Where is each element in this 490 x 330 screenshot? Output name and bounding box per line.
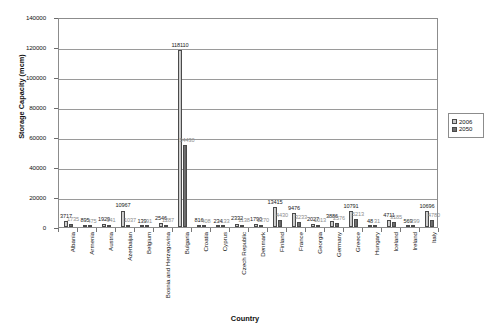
x-tick-mark	[343, 228, 344, 232]
bar-2006	[254, 224, 258, 227]
x-tick-mark	[229, 228, 230, 232]
gridline	[59, 139, 437, 140]
x-category-label: Georgia	[317, 232, 323, 254]
gridline	[59, 169, 437, 170]
x-tick-mark	[172, 228, 173, 232]
x-tick-mark	[400, 228, 401, 232]
x-category-label: Finland	[279, 232, 285, 252]
bar-2050	[183, 145, 187, 227]
data-label-2006: 10791	[338, 204, 364, 210]
x-category-label: Bosnia and Herzegovina	[165, 232, 171, 298]
x-category-label: Austria	[108, 232, 114, 251]
data-label-2006: 9476	[281, 206, 307, 212]
x-category-label: Bulgaria	[184, 232, 190, 254]
data-label-2050: 1287	[156, 218, 180, 224]
x-category-label: Germany	[336, 232, 342, 257]
y-axis-title: Storage Capacity (mcm)	[17, 32, 26, 162]
x-category-label: Armenia	[89, 232, 95, 255]
x-category-label: Greece	[355, 232, 361, 252]
x-tick-mark	[96, 228, 97, 232]
x-tick-mark	[381, 228, 382, 232]
legend-item-2006: 2006	[452, 119, 481, 125]
bar-2006	[159, 223, 163, 227]
bar-2050	[145, 225, 149, 227]
x-tick-mark	[134, 228, 135, 232]
x-category-label: France	[298, 232, 304, 251]
data-label-2050: 299	[403, 219, 427, 225]
x-tick-mark	[115, 228, 116, 232]
x-tick-mark	[210, 228, 211, 232]
x-category-label: Azerbaijan	[127, 232, 133, 261]
y-tick-label: 140000	[26, 15, 46, 21]
legend-swatch-icon-2006	[452, 119, 457, 124]
gridline	[59, 109, 437, 110]
x-tick-mark	[248, 228, 249, 232]
bar-2050	[126, 225, 130, 227]
x-tick-mark	[324, 228, 325, 232]
bar-2006	[311, 224, 315, 227]
bar-2050	[278, 220, 282, 227]
x-axis-title: Country	[0, 314, 490, 323]
bar-2050	[335, 223, 339, 227]
bar-2006	[140, 225, 144, 227]
bar-2050	[259, 225, 263, 227]
bar-2050	[240, 225, 244, 227]
bar-2006	[330, 221, 334, 227]
bar-2050	[221, 225, 225, 227]
x-category-label: Czech Republic	[241, 232, 247, 275]
data-label-2006: 118110	[167, 43, 193, 49]
gridline	[59, 79, 437, 80]
legend-swatch-icon-2050	[452, 127, 457, 132]
x-category-label: Cyprus	[222, 232, 228, 251]
x-category-label: Ireland	[412, 232, 418, 251]
y-tick-label: 60000	[29, 135, 46, 141]
gridline	[59, 49, 437, 50]
x-tick-mark	[286, 228, 287, 232]
plot-area: 3717173589547519299411096710371399125461…	[58, 18, 438, 228]
y-tick-label: 120000	[26, 45, 46, 51]
chart-legend: 2006 2050	[448, 113, 484, 138]
bar-2006	[102, 224, 106, 227]
bar-2050	[430, 220, 434, 227]
x-category-label: Croatia	[203, 232, 209, 252]
x-tick-mark	[77, 228, 78, 232]
bar-2050	[411, 225, 415, 227]
x-tick-mark	[305, 228, 306, 232]
bar-2006	[216, 225, 220, 227]
x-tick-mark	[438, 228, 439, 232]
x-tick-mark	[58, 228, 59, 232]
data-label-2006: 10967	[110, 203, 136, 209]
bar-2050	[316, 225, 320, 227]
x-category-label: Belgium	[146, 232, 152, 254]
bar-2050	[202, 225, 206, 227]
bar-2050	[88, 225, 92, 227]
x-tick-mark	[153, 228, 154, 232]
bar-2050	[373, 225, 377, 227]
x-tick-mark	[419, 228, 420, 232]
bar-2050	[69, 224, 73, 227]
legend-item-2050: 2050	[452, 126, 481, 132]
x-tick-mark	[362, 228, 363, 232]
bar-2006	[235, 224, 239, 227]
x-category-label: Denmark	[260, 232, 266, 257]
legend-label-2050: 2050	[459, 126, 472, 132]
y-tick-label: 20000	[29, 195, 46, 201]
data-label-2006: 10696	[414, 204, 440, 210]
bar-2050	[164, 225, 168, 227]
data-label-2050: 4780	[422, 213, 446, 219]
x-category-label: Hungary	[374, 232, 380, 255]
legend-label-2006: 2006	[459, 119, 472, 125]
x-tick-mark	[267, 228, 268, 232]
y-tick-label: 80000	[29, 105, 46, 111]
gridline	[59, 199, 437, 200]
x-tick-mark	[191, 228, 192, 232]
bar-chart: Storage Capacity (mcm) 02000040000600008…	[0, 0, 490, 330]
data-label-2050: 5213	[346, 212, 370, 218]
bar-2006	[83, 225, 87, 227]
bar-2006	[368, 225, 372, 227]
y-tick-label: 40000	[29, 165, 46, 171]
data-label-2050: 54430	[175, 138, 199, 144]
x-category-label: Albania	[70, 232, 76, 252]
bar-2006	[406, 225, 410, 227]
x-category-label: Iceland	[393, 232, 399, 252]
